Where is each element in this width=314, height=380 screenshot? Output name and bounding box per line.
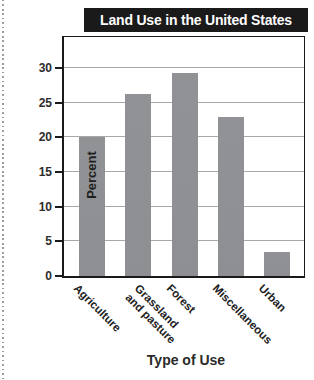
y-tickmark-20 <box>55 136 62 138</box>
y-tick-label-15: 15 <box>18 164 52 180</box>
chart-figure: Land Use in the United States 0510152025… <box>0 0 314 380</box>
y-tickmark-15 <box>55 171 62 173</box>
bar-urban <box>264 252 290 276</box>
gridline-30 <box>64 67 304 68</box>
y-tickmark-10 <box>55 206 62 208</box>
bar-grassland <box>125 94 151 276</box>
y-axis-title: Percent <box>84 146 100 204</box>
x-category-label-urban: Urban <box>255 282 288 315</box>
y-tickmark-0 <box>55 275 62 277</box>
y-tickmark-30 <box>55 67 62 69</box>
y-tick-label-30: 30 <box>18 60 52 76</box>
bar-miscellaneous <box>218 117 244 276</box>
x-axis-title: Type of Use <box>66 352 306 368</box>
bar-forest <box>172 73 198 276</box>
plot-area: 051015202530 Percent <box>62 36 305 278</box>
y-tickmark-25 <box>55 102 62 104</box>
page-edge-dotted-line <box>2 0 4 380</box>
y-tick-label-10: 10 <box>18 199 52 215</box>
y-tickmark-5 <box>55 240 62 242</box>
x-category-label-agriculture: Agriculture <box>71 282 124 335</box>
y-tick-label-20: 20 <box>18 129 52 145</box>
y-tick-label-0: 0 <box>18 268 52 284</box>
chart-title-bar: Land Use in the United States <box>84 8 308 32</box>
chart-title: Land Use in the United States <box>100 12 292 28</box>
y-tick-label-25: 25 <box>18 95 52 111</box>
y-tick-label-5: 5 <box>18 233 52 249</box>
